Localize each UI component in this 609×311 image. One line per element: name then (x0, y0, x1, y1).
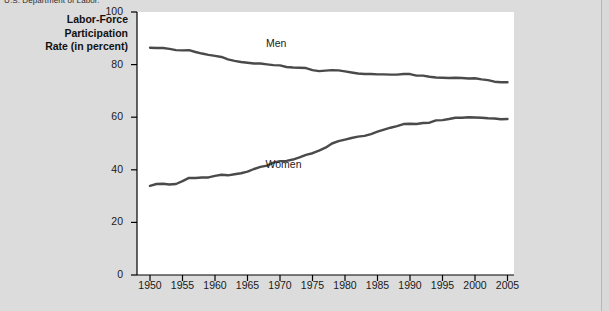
series-line-women (150, 117, 508, 186)
series-label-men: Men (266, 37, 286, 49)
chart-figure: U.S. Department of Labor. Labor-Force Pa… (0, 0, 602, 311)
y-tick-label: 60 (83, 110, 123, 122)
series-line-men (150, 48, 508, 82)
y-tick-label: 40 (83, 163, 123, 175)
y-axis-ticks (131, 12, 137, 275)
y-tick-label: 0 (83, 268, 123, 280)
series-label-women: Women (266, 158, 302, 170)
y-tick-label: 100 (83, 5, 123, 17)
x-tick-label: 2005 (488, 279, 528, 291)
y-tick-label: 80 (83, 58, 123, 70)
chart-svg (0, 0, 601, 311)
y-tick-label: 20 (83, 215, 123, 227)
